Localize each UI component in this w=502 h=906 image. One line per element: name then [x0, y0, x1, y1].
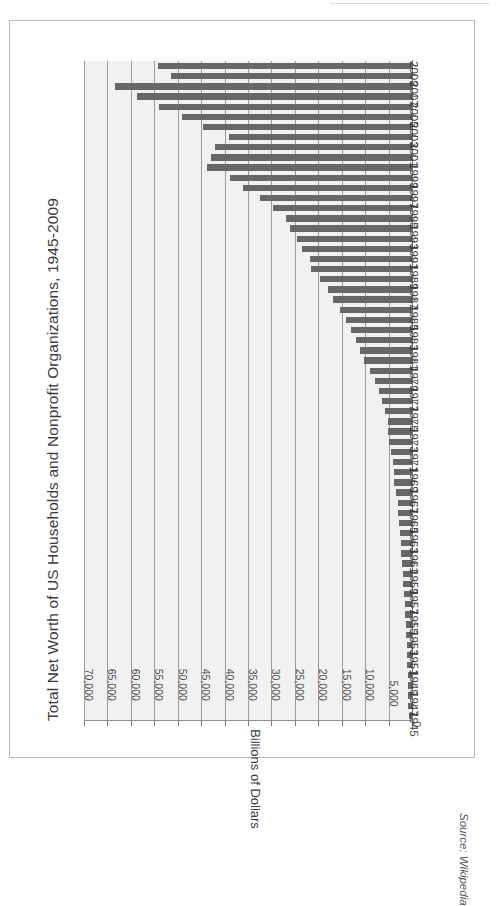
value-axis-tick	[248, 721, 249, 726]
value-axis-label: 15,000	[341, 669, 353, 701]
bar	[229, 134, 412, 140]
value-axis-tick	[131, 721, 132, 726]
value-axis-label: 45,000	[200, 669, 212, 701]
gridline	[201, 61, 202, 720]
value-axis-tick	[271, 721, 272, 726]
value-axis-label: 60,000	[130, 669, 142, 701]
category-axis-label: 2009	[408, 61, 420, 87]
bar	[333, 296, 412, 302]
value-axis-tick	[389, 721, 390, 726]
value-axis-label: 70,000	[83, 669, 95, 701]
gridline	[178, 61, 179, 720]
value-axis-label: 30,000	[270, 669, 282, 701]
bar	[360, 347, 412, 353]
figure-frame: Total Net Worth of US Households and Non…	[9, 20, 475, 758]
bar	[182, 114, 412, 120]
bar	[356, 337, 412, 343]
chart-canvas: Total Net Worth of US Households and Non…	[22, 39, 462, 739]
value-axis-label: 55,000	[153, 669, 165, 701]
bar	[158, 63, 412, 69]
value-axis-label: 40,000	[224, 669, 236, 701]
bar	[328, 286, 412, 292]
bar	[351, 327, 412, 333]
value-axis-label: 35,000	[247, 669, 259, 701]
bar	[290, 225, 412, 231]
bar	[370, 368, 412, 374]
bar	[273, 205, 412, 211]
value-axis-label: 65,000	[106, 669, 118, 701]
value-axis-tick	[154, 721, 155, 726]
bar	[215, 144, 412, 150]
bar	[260, 195, 412, 201]
value-axis-tick	[365, 721, 366, 726]
value-axis-tick	[225, 721, 226, 726]
bar	[364, 357, 412, 363]
gridline	[107, 61, 108, 720]
gridline	[131, 61, 132, 720]
bar	[137, 93, 412, 99]
source-note: Source: Wikipedia	[458, 813, 470, 906]
bar	[203, 124, 412, 130]
top-rule	[330, 3, 490, 4]
chart-title: Total Net Worth of US Households and Non…	[44, 61, 62, 721]
bar	[375, 378, 412, 384]
bar	[311, 266, 412, 272]
bar	[320, 276, 412, 282]
bar	[286, 215, 412, 221]
value-axis-label: 25,000	[294, 669, 306, 701]
bar	[171, 73, 412, 79]
value-axis-tick	[84, 721, 85, 726]
bar	[211, 154, 412, 160]
value-axis-tick	[318, 721, 319, 726]
gridline	[84, 61, 85, 720]
value-axis-tick	[201, 721, 202, 726]
value-axis-tick	[342, 721, 343, 726]
bar	[230, 175, 412, 181]
bar	[346, 317, 412, 323]
bar	[297, 236, 412, 242]
value-axis-label: 50,000	[177, 669, 189, 701]
bar	[115, 83, 412, 89]
bar	[302, 246, 412, 252]
value-axis-tick	[295, 721, 296, 726]
value-axis-tick	[107, 721, 108, 726]
value-axis-label: 20,000	[317, 669, 329, 701]
value-axis-label: 10,000	[364, 669, 376, 701]
bar	[340, 307, 412, 313]
bar	[159, 104, 412, 110]
gridline	[154, 61, 155, 720]
bar	[207, 164, 412, 170]
bar	[310, 256, 412, 262]
value-axis-tick	[178, 721, 179, 726]
value-axis-label: 5,000	[388, 680, 400, 706]
bar	[243, 185, 412, 191]
value-axis-title: Billions of Dollars	[248, 729, 263, 829]
